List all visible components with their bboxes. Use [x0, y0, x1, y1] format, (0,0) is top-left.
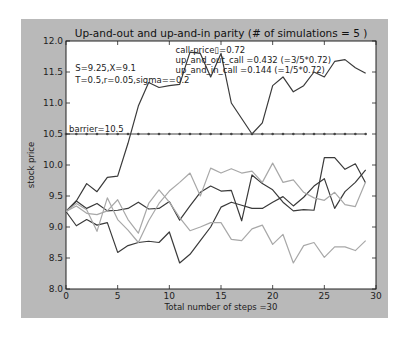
y-tick-label: 11.0	[43, 98, 63, 108]
line-chart: 0510152025308.08.59.09.510.010.511.011.5…	[21, 19, 388, 318]
chart-figure: 0510152025308.08.59.09.510.010.511.011.5…	[21, 19, 388, 318]
y-tick-label: 10.5	[43, 129, 63, 139]
x-tick-label: 10	[164, 291, 176, 301]
call-price-annotation: call-price▯=0.72	[176, 45, 246, 55]
x-tick-label: 20	[267, 291, 279, 301]
y-tick-label: 11.5	[43, 67, 63, 77]
up-and-in-annotation: up_and_in_call =0.144 (=1/5*0.72)	[176, 65, 325, 75]
x-tick-label: 30	[370, 291, 382, 301]
x-tick-label: 15	[215, 291, 226, 301]
y-tick-label: 10.0	[43, 160, 63, 170]
x-axis-label: Total number of steps =30	[164, 302, 278, 312]
y-tick-label: 9.5	[49, 191, 63, 201]
params-annotation-1: S=9.25,X=9.1	[75, 63, 136, 73]
chart-title: Up-and-out and up-and-in parity (# of si…	[75, 27, 368, 39]
x-tick-label: 5	[115, 291, 121, 301]
x-tick-label: 25	[319, 291, 330, 301]
barrier-label: barrier=10.5	[69, 124, 124, 134]
y-tick-label: 9.0	[49, 222, 64, 232]
y-tick-label: 8.5	[49, 253, 63, 263]
y-axis-label: stock price	[26, 142, 36, 188]
params-annotation-2: T=0.5,r=0.05,sigma==0.2	[74, 75, 189, 85]
y-tick-label: 8.0	[49, 284, 64, 294]
y-tick-label: 12.0	[43, 36, 63, 46]
x-tick-label: 0	[63, 291, 69, 301]
up-and-out-annotation: up_and_out_call =0.432 (=3/5*0.72)	[176, 55, 332, 65]
